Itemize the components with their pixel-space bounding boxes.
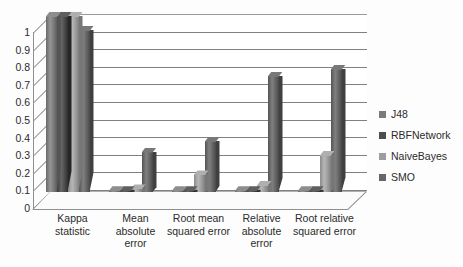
- legend-swatch-icon: [379, 174, 386, 181]
- bar-side: [216, 141, 220, 192]
- bar-side: [268, 185, 272, 192]
- chart-legend: J48RBFNetworkNaiveBayesSMO: [379, 104, 463, 188]
- bar-group: [298, 14, 342, 210]
- x-axis-labels: Kappa statisticMean absolute errorRoot m…: [33, 212, 378, 267]
- legend-item[interactable]: J48: [379, 104, 463, 125]
- y-tick-label: 0.4: [0, 133, 30, 143]
- y-tick-label: 1: [0, 27, 30, 37]
- legend-item[interactable]: NaiveBayes: [379, 146, 463, 167]
- bar-face: [46, 16, 57, 192]
- legend-label: SMO: [391, 172, 415, 183]
- bars-layer: [33, 14, 366, 210]
- bar: [172, 190, 183, 192]
- bar-side: [79, 16, 83, 192]
- bar: [194, 174, 205, 192]
- x-axis-label: Root relative squared error: [293, 212, 357, 237]
- bar-face: [194, 174, 205, 192]
- bar: [46, 16, 57, 192]
- legend-swatch-icon: [379, 111, 386, 118]
- legend-label: J48: [391, 109, 408, 120]
- y-tick-label: 0.9: [0, 45, 30, 55]
- y-tick-label: 0.5: [0, 115, 30, 125]
- bar-side: [142, 188, 146, 192]
- y-tick-label: 0.7: [0, 80, 30, 90]
- y-tick-label: 0.8: [0, 62, 30, 72]
- legend-swatch-icon: [379, 132, 386, 139]
- bar: [109, 190, 120, 192]
- plot-area: [33, 14, 366, 210]
- bar-group: [109, 14, 153, 210]
- bar-face: [268, 76, 279, 192]
- bar-side: [331, 155, 335, 192]
- x-axis-label: Relative absolute error: [230, 212, 294, 250]
- y-tick-label: 0.2: [0, 168, 30, 178]
- y-tick-label: 0.1: [0, 185, 30, 195]
- bar-chart: 10.90.80.70.60.50.40.30.20.10 Kappa stat…: [0, 0, 463, 267]
- bar-side: [68, 16, 72, 192]
- bar: [298, 190, 309, 192]
- y-tick-label: 0.3: [0, 150, 30, 160]
- legend-swatch-icon: [379, 153, 386, 160]
- x-axis-label: Kappa statistic: [41, 212, 105, 237]
- bar: [235, 190, 246, 192]
- bar-side: [279, 76, 283, 192]
- x-axis-label: Root mean squared error: [167, 212, 231, 237]
- legend-item[interactable]: RBFNetwork: [379, 125, 463, 146]
- bar-group: [235, 14, 279, 210]
- bar-side: [90, 30, 94, 192]
- bar-side: [342, 69, 346, 192]
- bar-group: [46, 14, 90, 210]
- legend-item[interactable]: SMO: [379, 167, 463, 188]
- legend-label: NaiveBayes: [391, 151, 447, 162]
- legend-label: RBFNetwork: [391, 130, 451, 141]
- bar: [268, 76, 279, 192]
- x-axis-label: Mean absolute error: [104, 212, 168, 250]
- bar-side: [153, 152, 157, 192]
- y-tick-label: 0.6: [0, 97, 30, 107]
- bar-group: [172, 14, 216, 210]
- y-axis: 10.90.80.70.60.50.40.30.20.10: [0, 0, 30, 267]
- bar-side: [205, 174, 209, 192]
- bar-side: [57, 16, 61, 192]
- y-tick-label: 0: [0, 203, 30, 213]
